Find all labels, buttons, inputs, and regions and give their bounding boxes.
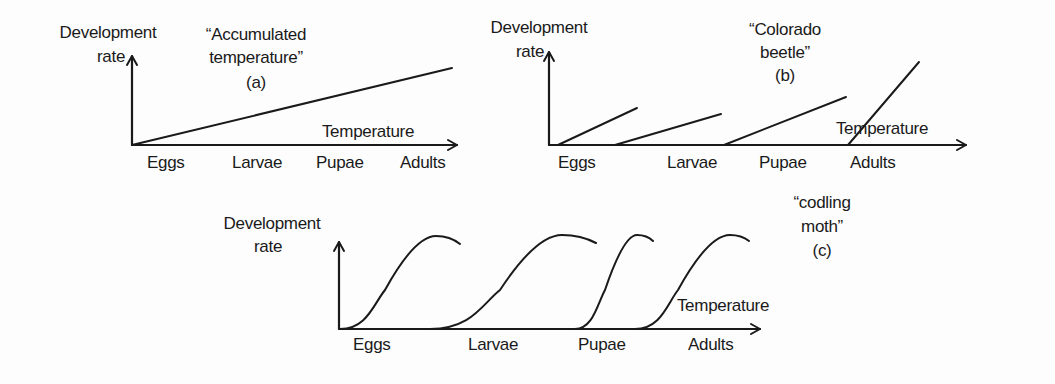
panel-b-colorado-beetle: “Colorado beetle” (b) Development rate T…	[491, 18, 966, 172]
panel-c-axes	[339, 242, 760, 329]
stage-label-pupae: Pupae	[578, 335, 626, 354]
rate-curve-eggs	[340, 236, 460, 329]
stage-label-larvae: Larvae	[232, 153, 282, 172]
stage-label-larvae: Larvae	[667, 153, 717, 172]
panel-c-stage-labels: EggsLarvaePupaeAdults	[353, 335, 733, 354]
panel-a-title-line-1: “Accumulated	[206, 25, 306, 44]
stage-label-adults: Adults	[400, 153, 445, 172]
panel-b-title: “Colorado beetle” (b)	[749, 20, 821, 85]
stage-label-pupae: Pupae	[316, 153, 364, 172]
stage-label-eggs: Eggs	[353, 335, 391, 354]
panel-b-y-axis-label: Development	[491, 18, 588, 37]
rate-line-larvae	[615, 114, 721, 145]
stage-label-pupae: Pupae	[759, 153, 807, 172]
development-rate-diagram: “Accumulated temperature” (a) Developmen…	[0, 0, 1055, 384]
rate-curve-pupae	[575, 235, 653, 329]
rate-line-eggs	[558, 108, 637, 145]
stage-label-adults: Adults	[688, 335, 733, 354]
rate-line-pupae	[724, 97, 846, 145]
panel-a-stage-labels: EggsLarvaePupaeAdults	[147, 153, 445, 172]
panel-c-title-line-2: moth”	[801, 217, 844, 236]
panel-a-x-axis-label: Temperature	[322, 122, 414, 141]
rate-curve-larvae	[430, 235, 596, 329]
panel-a-y-axis-label: Development	[60, 23, 157, 42]
panel-c-x-axis-label: Temperature	[677, 296, 769, 315]
panel-a-accumulated-temperature: “Accumulated temperature” (a) Developmen…	[60, 23, 457, 172]
panel-b-title-line-1: “Colorado	[749, 20, 821, 39]
panel-b-title-line-3: (b)	[775, 66, 795, 85]
stage-label-eggs: Eggs	[147, 153, 185, 172]
panel-c-title-line-3: (c)	[813, 241, 832, 260]
panel-b-title-line-2: beetle”	[760, 43, 811, 62]
stage-label-adults: Adults	[850, 153, 895, 172]
panel-b-y-axis-label-2: rate	[516, 42, 544, 61]
panel-a-title-line-2: temperature”	[209, 48, 303, 67]
panel-c-title: “codling moth” (c)	[793, 193, 850, 260]
stage-label-eggs: Eggs	[558, 153, 596, 172]
stage-label-larvae: Larvae	[468, 335, 518, 354]
panel-a-title-line-3: (a)	[246, 73, 266, 92]
panel-c-title-line-1: “codling	[793, 193, 850, 212]
panel-a-y-axis-label-2: rate	[97, 47, 125, 66]
diagram-canvas: “Accumulated temperature” (a) Developmen…	[0, 0, 1055, 384]
panel-a-title: “Accumulated temperature” (a)	[206, 25, 306, 92]
panel-c-y-axis-label-2: rate	[254, 237, 282, 256]
panel-b-stage-labels: EggsLarvaePupaeAdults	[558, 153, 895, 172]
panel-c-y-axis-label: Development	[224, 214, 321, 233]
panel-b-x-axis-label: Temperature	[836, 119, 928, 138]
panel-c-codling-moth: “codling moth” (c) Development rate Temp…	[224, 193, 851, 354]
